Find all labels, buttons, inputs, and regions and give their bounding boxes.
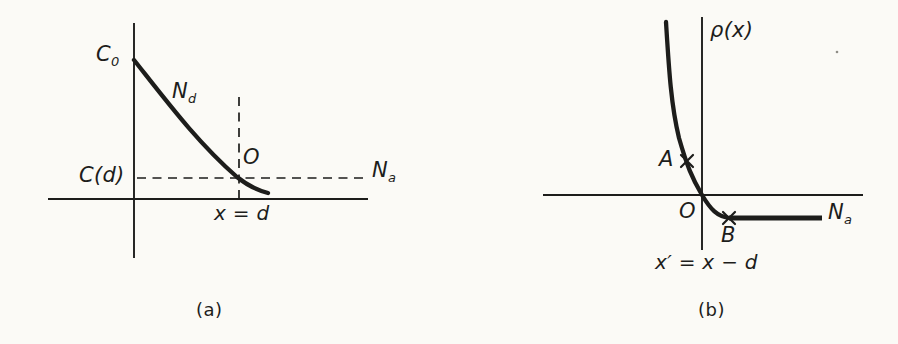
b-na-main: N — [828, 200, 844, 224]
b-point-a-label: A — [659, 149, 674, 170]
a-nd-main: N — [172, 79, 188, 103]
b-origin-label: O — [679, 201, 696, 222]
a-nd-sub: d — [188, 91, 197, 106]
a-x-axis-annotation: x = d — [214, 203, 270, 223]
a-c0-label: C0 — [96, 44, 120, 65]
b-na-sub: a — [844, 212, 852, 227]
a-origin-label: O — [243, 147, 260, 168]
a-na-sub: a — [388, 170, 396, 185]
b-na-level-label: Na — [828, 202, 852, 223]
b-y-axis-label: ρ(x) — [710, 20, 753, 41]
a-nd-curve-label: Nd — [172, 81, 197, 102]
b-x-axis-annotation: x′ = x − d — [655, 252, 758, 272]
a-na-level-label: Na — [372, 160, 396, 181]
figure-linework — [0, 0, 898, 344]
figure-scan: C0 Nd O C(d) Na x = d (a) ρ(x) A O B Na … — [0, 0, 898, 344]
a-na-main: N — [372, 158, 388, 182]
caption-b: (b) — [698, 301, 725, 319]
scan-speck — [836, 51, 839, 54]
a-c0-main: C — [96, 42, 111, 66]
b-rho-profile-curve — [666, 22, 729, 218]
a-nd-profile-curve — [134, 60, 268, 193]
a-c0-sub: 0 — [111, 54, 120, 69]
a-cd-level-label: C(d) — [79, 165, 125, 186]
plot-b-linework — [543, 17, 863, 250]
caption-a: (a) — [196, 301, 223, 319]
b-point-b-label: B — [721, 225, 736, 246]
